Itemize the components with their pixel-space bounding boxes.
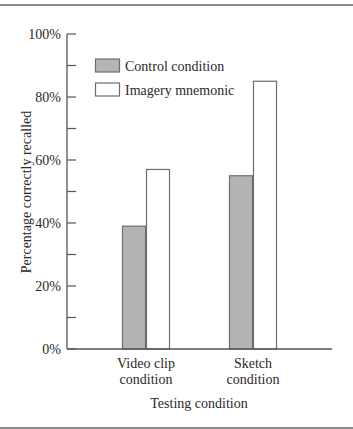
x-category-label: Video clip bbox=[117, 356, 175, 371]
legend-label: Control condition bbox=[125, 59, 224, 74]
y-axis-label: Percentage correctly recalled bbox=[19, 111, 34, 273]
bar-imagery-video-clip bbox=[147, 169, 170, 349]
bars bbox=[123, 81, 277, 349]
y-tick-label: 80% bbox=[35, 90, 61, 105]
y-tick-label: 100% bbox=[28, 27, 61, 42]
y-tick-label: 20% bbox=[35, 279, 61, 294]
bar-imagery-sketch bbox=[254, 81, 277, 349]
bar-chart: 0%20%40%60%80%100% Video clipconditionSk… bbox=[0, 0, 353, 429]
x-category-label: condition bbox=[120, 372, 173, 387]
bar-control-video-clip bbox=[123, 226, 146, 349]
x-category-label: Sketch bbox=[234, 356, 272, 371]
y-tick-label: 40% bbox=[35, 216, 61, 231]
legend-swatch bbox=[96, 59, 120, 72]
y-tick-label: 60% bbox=[35, 153, 61, 168]
bar-control-sketch bbox=[230, 176, 253, 349]
legend-label: Imagery mnemonic bbox=[125, 83, 234, 98]
legend-swatch bbox=[96, 83, 120, 96]
legend: Control conditionImagery mnemonic bbox=[96, 59, 235, 98]
x-axis-label: Testing condition bbox=[150, 396, 247, 411]
x-axis: Video clipconditionSketchcondition bbox=[67, 349, 332, 387]
y-tick-label: 0% bbox=[42, 342, 61, 357]
x-category-label: condition bbox=[227, 372, 280, 387]
y-axis: 0%20%40%60%80%100% bbox=[28, 27, 76, 357]
